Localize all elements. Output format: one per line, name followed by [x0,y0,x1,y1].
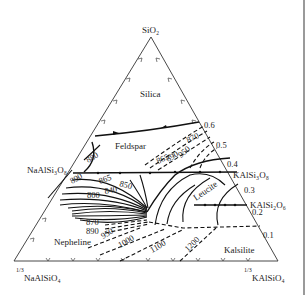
label-kalsi3o8: KAlSi₃O₈ [233,170,269,180]
isotherm-label-1200: 1200 [182,234,201,253]
isotherm-label-1000: 1000 [116,233,136,250]
vertex-label-nepheline-comp: NaAlSiO₄ [24,273,61,283]
isotherm-label-865: 865 [97,172,112,186]
leucite-lower-boundary [149,222,260,228]
axis-tick-0-3: 0.3 [244,185,255,195]
axis-tick-0-1: 0.1 [263,230,274,240]
axis-tick-0-4: 0.4 [227,159,238,169]
axis-tick-0-5: 0.5 [216,140,227,150]
isotherm-950 [190,142,214,168]
field-silica: Silica [140,89,161,99]
frac-left: 1/3 [16,267,24,273]
silica-feldspar-boundary [95,122,199,136]
leucite-isotherm [167,185,195,224]
isotherm-label-840: 840 [104,184,118,196]
field-feldspar: Feldspar [115,141,146,151]
isotherm-label-880: 880 [84,150,100,165]
vertex-label-sio2: SiO₂ [142,25,159,35]
label-naalsi3o8: NaAlSi₃O₈ [27,165,67,175]
arrow-marker [161,125,167,128]
frac-right: 1/3 [244,267,252,273]
isotherm-dash [105,222,148,229]
right-border-line [303,0,305,295]
axis-tick-0-6: 0.6 [204,120,215,130]
axis-tick-0-2: 0.2 [252,207,263,217]
field-nepheline: Nepheline [54,237,91,247]
phase-diagram-figure: SiO₂ 1/3 NaAlSiO₄ 1/3 KAlSiO₄ NaAlSi₃O₈ … [0,0,308,295]
field-kalsilite: Kalsilite [224,245,255,255]
field-leucite: Leucite [191,179,219,203]
right-edge-ticks [156,58,196,124]
isotherm-label-800: 800 [87,190,100,200]
triangle-outline [14,37,278,261]
ternary-diagram-svg: SiO₂ 1/3 NaAlSiO₄ 1/3 KAlSiO₄ NaAlSi₃O₈ … [0,0,308,295]
isotherm-label-1100: 1100 [148,238,167,255]
vertex-label-kalsilite-comp: KAlSiO₄ [252,273,285,283]
isotherm-label-890-lower: 890 [86,226,99,236]
isotherm-label-870-upper: 870 [185,130,201,144]
